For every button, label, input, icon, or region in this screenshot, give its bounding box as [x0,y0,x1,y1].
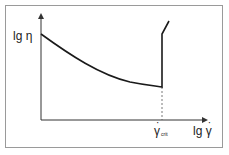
y-axis-label: lg η [13,30,32,42]
crit-subscript: crit [161,131,168,137]
crit-label: γcrit [154,125,168,137]
gamma-dot-glyph: γ [154,125,160,137]
x-axis-label: lg γ [193,125,212,137]
x-axis-prefix: lg [193,124,202,138]
x-gamma-dot-glyph: γ [206,125,212,137]
viscosity-curve [41,21,169,87]
